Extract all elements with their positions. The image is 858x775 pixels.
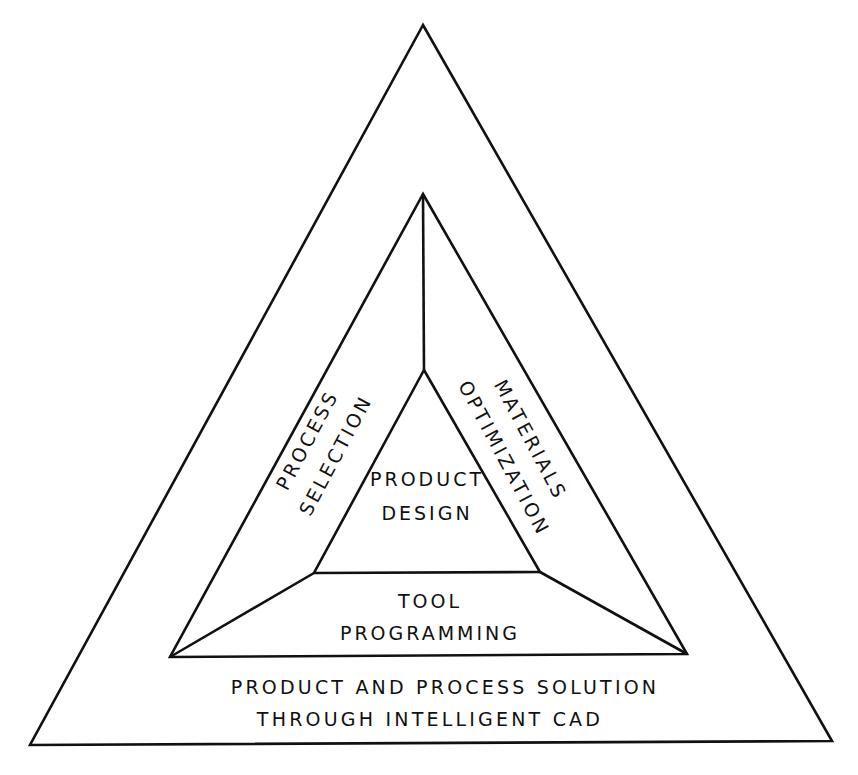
outer-label-line1: PRODUCT AND PROCESS SOLUTION: [231, 676, 660, 698]
inner-label-line2: DESIGN: [381, 502, 472, 524]
left-section-label: PROCESS SELECTION: [266, 376, 376, 519]
right-section-label: MATERIALS OPTIMIZATION: [454, 362, 583, 540]
bottom-section-label-line2: PROGRAMMING: [340, 622, 520, 644]
nested-triangle-diagram: PRODUCT DESIGN PROCESS SELECTION MATERIA…: [0, 0, 858, 775]
bottom-section-label-line1: TOOL: [397, 590, 462, 612]
middle-triangle: [170, 194, 687, 657]
inner-label-line1: PRODUCT: [370, 468, 484, 490]
outer-label-line2: THROUGH INTELLIGENT CAD: [256, 708, 603, 730]
connector-top: [423, 194, 424, 370]
